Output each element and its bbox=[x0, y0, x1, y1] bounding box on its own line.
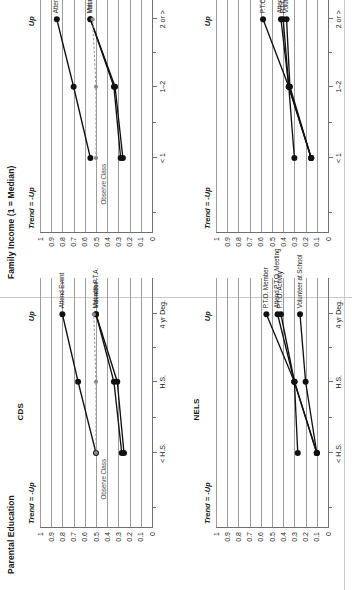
figure-canvas: Parental EducationFamily Income (1 = Med… bbox=[0, 0, 352, 590]
series-lines bbox=[0, 0, 352, 590]
data-point bbox=[284, 16, 290, 22]
data-point bbox=[308, 155, 314, 161]
series-label-0: P.T.O. Member bbox=[260, 0, 267, 13]
data-point bbox=[287, 84, 293, 90]
series-label-3: Volunteer at School bbox=[283, 0, 290, 13]
four-panel-figure: Parental EducationFamily Income (1 = Med… bbox=[0, 0, 352, 590]
panel-nels_family_income: 10.90.80.70.60.50.40.30.20.10< 11–22 or … bbox=[0, 0, 352, 590]
data-point bbox=[291, 155, 297, 161]
data-point bbox=[260, 16, 266, 22]
